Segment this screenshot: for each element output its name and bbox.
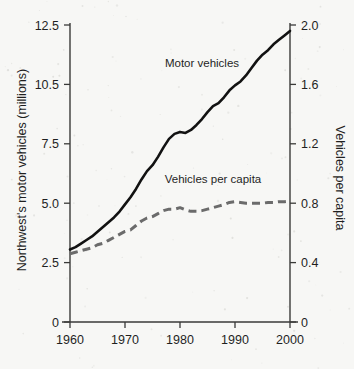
annotation-motor-vehicles: Motor vehicles <box>165 57 239 69</box>
speckle-dot <box>247 164 248 165</box>
speckle-dot <box>112 56 114 58</box>
speckle-dot <box>79 357 81 359</box>
speckle-dot <box>108 85 109 86</box>
speckle-dot <box>300 240 302 242</box>
speckle-dot <box>172 239 173 240</box>
speckle-dot <box>33 214 35 216</box>
speckle-dot <box>82 5 84 7</box>
speckle-dot <box>127 213 129 215</box>
speckle-dot <box>94 7 95 8</box>
left-tick-label: 7.5 <box>42 137 59 151</box>
speckle-dot <box>244 58 246 60</box>
speckle-dot <box>319 23 321 25</box>
speckle-dot <box>65 94 66 95</box>
speckle-dot <box>222 138 224 140</box>
speckle-dot <box>137 19 138 20</box>
speckle-dot <box>293 230 295 232</box>
speckle-dot <box>73 135 75 137</box>
speckle-dot <box>73 202 75 204</box>
speckle-dot <box>193 167 194 168</box>
speckle-dot <box>107 179 108 180</box>
speckle-dot <box>28 22 29 23</box>
speckle-dot <box>287 233 289 235</box>
speckle-dot <box>302 38 303 39</box>
speckle-dot <box>348 308 350 310</box>
speckle-dot <box>111 168 112 169</box>
speckle-dot <box>281 158 283 160</box>
chart-figure: 02.55.07.510.512.5 00.40.81.21.62.0 1960… <box>0 0 354 369</box>
speckle-dot <box>287 306 289 308</box>
speckle-dot <box>5 66 6 67</box>
speckle-dot <box>336 86 337 87</box>
speckle-dot <box>87 89 88 90</box>
left-tick-label: 10.5 <box>35 78 59 92</box>
speckle-dot <box>246 297 248 299</box>
speckle-dot <box>140 256 142 258</box>
left-tick-label: 0 <box>52 316 59 330</box>
speckle-dot <box>56 128 58 130</box>
speckle-dot <box>151 328 153 330</box>
speckle-dot <box>171 53 172 54</box>
x-tick-label: 1960 <box>56 333 84 347</box>
speckle-dot <box>39 10 40 11</box>
speckle-dot <box>278 256 280 258</box>
speckle-dot <box>124 176 126 178</box>
speckle-dot <box>19 67 21 69</box>
x-tick-label: 1990 <box>221 333 249 347</box>
speckle-dot <box>201 94 203 96</box>
speckle-dot <box>308 280 310 282</box>
speckle-dot <box>86 288 88 290</box>
speckle-dot <box>64 233 65 234</box>
speckle-dot <box>192 292 193 293</box>
x-tick-label: 1980 <box>166 333 194 347</box>
speckle-dot <box>63 49 65 51</box>
speckle-dot <box>140 78 142 80</box>
speckle-dot <box>213 290 214 291</box>
left-tick-label: 12.5 <box>35 19 59 33</box>
speckle-dot <box>285 156 287 158</box>
speckle-dot <box>281 249 283 251</box>
speckle-dot <box>57 63 59 65</box>
speckle-dot <box>116 61 117 62</box>
speckle-dot <box>145 297 147 299</box>
speckle-dot <box>319 94 321 96</box>
right-tick-label: 1.2 <box>301 137 318 151</box>
speckle-dot <box>327 177 329 179</box>
speckle-dot <box>11 75 13 77</box>
speckle-dot <box>86 251 87 252</box>
speckle-dot <box>291 112 293 114</box>
speckle-dot <box>213 125 214 126</box>
speckle-dot <box>273 248 274 249</box>
speckle-dot <box>320 6 322 8</box>
speckle-dot <box>12 249 13 250</box>
left-tick-label: 5.0 <box>42 197 59 211</box>
right-axis-title: Vehicles per capita <box>333 126 347 231</box>
speckle-dot <box>343 49 344 50</box>
speckle-dot <box>87 214 89 216</box>
speckle-dot <box>72 266 73 267</box>
speckle-dot <box>79 250 80 251</box>
x-tick-label: 1970 <box>111 333 139 347</box>
speckle-dot <box>125 16 127 18</box>
speckle-dot <box>319 262 320 263</box>
speckle-dot <box>108 1 109 2</box>
speckle-dot <box>11 63 12 64</box>
speckle-dot <box>43 153 45 155</box>
speckle-dot <box>317 50 319 52</box>
speckle-dot <box>115 205 116 206</box>
speckle-dot <box>284 69 286 71</box>
speckle-dot <box>221 22 223 24</box>
speckle-dot <box>113 15 114 16</box>
speckle-dot <box>7 69 9 71</box>
speckle-dot <box>217 200 219 202</box>
speckle-dot <box>77 145 78 146</box>
speckle-dot <box>98 205 100 207</box>
left-axis-title: Northwest's motor vehicles (millions) <box>15 69 29 271</box>
speckle-dot <box>92 367 94 369</box>
speckle-dot <box>111 110 113 112</box>
annotation-vehicles-per-capita: Vehicles per capita <box>165 173 262 185</box>
speckle-dot <box>58 75 60 77</box>
speckle-dot <box>83 144 84 145</box>
speckle-dot <box>120 116 121 117</box>
speckle-dot <box>19 289 20 290</box>
